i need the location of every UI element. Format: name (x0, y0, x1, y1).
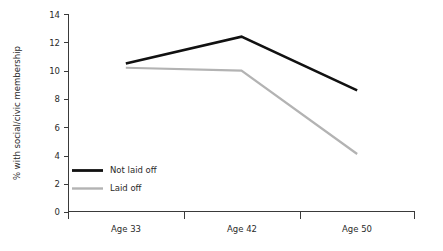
x-tick-label-age-33: Age 33 (111, 224, 141, 234)
x-tick-label-age-50: Age 50 (342, 224, 372, 234)
y-tick-label: 2 (55, 179, 60, 189)
y-axis-title: % with social/civic membership (12, 46, 22, 180)
line-chart-figure: 14 12 10 8 6 4 2 0 % with social/civic m… (0, 0, 443, 251)
x-tick-label-age-42: Age 42 (227, 224, 257, 234)
y-tick-label: 10 (49, 66, 60, 76)
legend-label-laid-off: Laid off (110, 183, 143, 193)
chart-canvas: 14 12 10 8 6 4 2 0 % with social/civic m… (0, 0, 443, 251)
y-tick-label: 14 (49, 10, 60, 20)
y-tick-label: 12 (49, 38, 60, 48)
y-tick-label: 0 (55, 207, 60, 217)
y-tick-label: 4 (55, 151, 60, 161)
y-tick-label: 6 (55, 123, 60, 133)
chart-background (0, 0, 443, 251)
legend-label-not-laid-off: Not laid off (110, 165, 158, 175)
y-tick-label: 8 (55, 94, 60, 104)
